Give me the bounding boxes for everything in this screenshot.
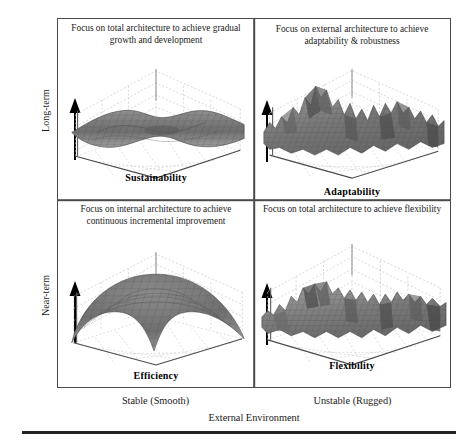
quadrant-label-adaptability: Adaptability — [254, 186, 450, 197]
quadrant-label-efficiency: Efficiency — [58, 370, 254, 381]
quadrant-caption: Focus on total architecture to achieve f… — [254, 204, 450, 216]
quadrant-label-sustainability: Sustainability — [58, 172, 254, 183]
quadrant-label-flexibility: Flexibility — [254, 360, 450, 371]
y-axis-top-label: Long-term — [40, 71, 51, 151]
x-axis-left-label: Stable (Smooth) — [57, 395, 254, 406]
x-axis-title: External Environment — [57, 412, 451, 423]
x-axis-right-label: Unstable (Rugged) — [254, 395, 451, 406]
quadrant-caption: Focus on internal architecture to achiev… — [58, 204, 254, 227]
quadrant-matrix: Focus on total architecture to achieve g… — [57, 18, 451, 388]
fitness-landscape-matrix-figure: Timescale for Change Long-term Near-term… — [0, 0, 472, 441]
bottom-rule — [22, 431, 456, 434]
y-axis-bottom-label: Near-term — [40, 256, 51, 336]
quadrant-caption: Focus on external architecture to achiev… — [254, 24, 450, 47]
surface-plot-flexibility — [254, 242, 450, 367]
quadrant-sustainability: Focus on total architecture to achieve g… — [58, 19, 254, 200]
surface-plot-efficiency — [58, 246, 254, 367]
quadrant-efficiency: Focus on internal architecture to achiev… — [58, 200, 254, 387]
quadrant-caption: Focus on total architecture to achieve g… — [58, 23, 254, 46]
quadrant-adaptability: Focus on external architecture to achiev… — [254, 19, 450, 200]
surface-plot-sustainability — [58, 61, 254, 180]
surface-plot-adaptability — [254, 65, 450, 180]
quadrant-flexibility: Focus on total architecture to achieve f… — [254, 200, 450, 387]
